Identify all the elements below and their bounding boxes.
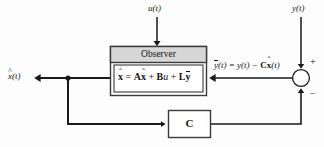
observer-state-equation: ̇̂x = Âx + Bu + Ly [118,72,191,82]
error-signal-expression: y(t) = y(t) − Ĉx(t) [214,61,280,70]
state-estimate-output-label: ^xx(t)(t) [8,72,21,81]
summing-junction-plus-sign: + [310,57,316,67]
observer-block-title: Observer [110,50,207,60]
input-y-label: y(t) [292,4,305,13]
c-output-to-junction-path [210,91,301,124]
feedback-block-label: C [168,118,211,129]
observer-block-diagram: u(t) y(t) ^xx(t)(t) Observer ̇̂x = Âx +… [0,0,324,147]
summing-junction [293,70,310,87]
summing-junction-minus-sign: − [310,89,316,99]
input-u-label: u(t) [148,4,161,13]
